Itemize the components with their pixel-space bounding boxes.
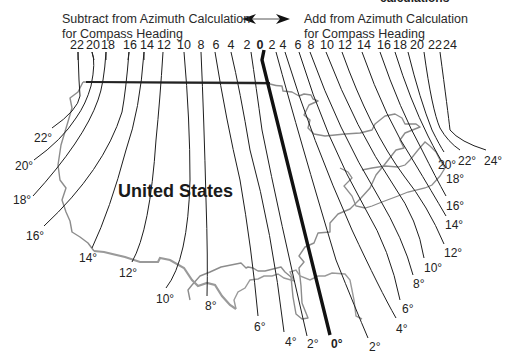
northern-border-line [86,82,270,83]
scale-west-10: 10 [177,38,191,52]
scale-east-22: 22 [428,38,442,52]
deg-label-e6: 6° [402,302,413,316]
scale-west-20: 20 [86,38,100,52]
deg-label-e12: 12° [444,246,462,260]
scale-west-8: 8 [198,38,205,52]
scale-west-16: 16 [123,38,137,52]
scale-west-22: 22 [70,38,84,52]
deg-label-e8: 8° [413,277,424,291]
deg-label-w2: 2° [307,337,318,351]
deg-label-w10: 10° [156,292,174,306]
scale-east-16: 16 [377,38,391,52]
scale-west-2: 2 [244,38,251,52]
scale-zero: 0 [257,38,264,52]
deg-label-w8: 8° [205,299,216,313]
scale-west-18: 18 [101,38,115,52]
us-outline [58,82,420,319]
scale-east-4: 4 [280,38,287,52]
deg-label-w6: 6° [254,320,265,334]
deg-label-w16: 16° [26,229,44,243]
deg-label-e14: 14° [445,218,463,232]
deg-label-e22: 22° [458,154,476,168]
subtract-caption-line1: Subtract from Azimuth Calculation [62,12,250,27]
scale-west-4: 4 [228,38,235,52]
deg-label-e24: 24° [484,154,502,168]
deg-label-e2: 2° [369,340,380,354]
deg-label-w12: 12° [119,266,137,280]
deg-label-w4: 4° [285,335,296,349]
agonic-line [262,50,330,335]
deg-label-e18: 18° [446,172,464,186]
scale-east-18: 18 [393,38,407,52]
deg-label-e10: 10° [424,261,442,275]
deg-label-w20: 20° [15,159,33,173]
declination-diagram: calculations Subtract from Azimuth Calcu… [0,0,514,363]
deg-label-zero: 0° [331,337,342,351]
deg-label-e4: 4° [396,322,407,336]
deg-label-e16: 16° [446,199,464,213]
deg-label-w22: 22° [34,131,52,145]
scale-east-6: 6 [295,38,302,52]
deg-label-w14: 14° [79,251,97,265]
cut-off-title: calculations [380,0,449,5]
scale-east-14: 14 [357,38,371,52]
scale-east-2: 2 [269,38,276,52]
scale-east-10: 10 [320,38,334,52]
scale-west-6: 6 [213,38,220,52]
great-lakes-outline [340,142,445,208]
isogonic-lines-graphic [0,0,514,363]
scale-east-12: 12 [338,38,352,52]
scale-east-20: 20 [410,38,424,52]
deg-label-w18: 18° [13,193,31,207]
scale-east-8: 8 [308,38,315,52]
scale-west-12: 12 [157,38,171,52]
scale-ticks [78,52,144,60]
scale-east-24: 24 [443,38,457,52]
map-label-united-states: United States [118,181,233,202]
deg-label-e20: 20° [438,158,456,172]
add-caption-line1: Add from Azimuth Calculation [304,12,468,27]
scale-west-14: 14 [140,38,154,52]
